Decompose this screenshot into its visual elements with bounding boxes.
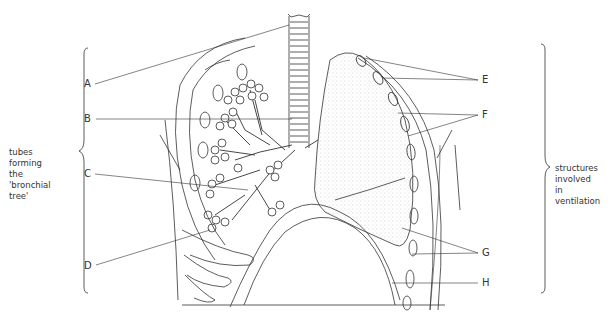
- caption-line: the: [9, 169, 51, 180]
- caption-line: in: [555, 185, 600, 196]
- ventilation-caption: structures involved in ventilation: [555, 163, 600, 207]
- label-f: F: [482, 109, 488, 120]
- alveoli: [204, 80, 284, 232]
- caption-line: forming: [9, 158, 51, 169]
- leader-lines: [95, 25, 478, 283]
- right-lung-outline: [314, 53, 413, 246]
- trachea: [288, 14, 310, 148]
- caption-line: ventilation: [555, 196, 600, 207]
- caption-line: involved: [555, 174, 600, 185]
- label-h: H: [482, 277, 490, 288]
- left-side-line: [160, 120, 180, 300]
- label-e: E: [482, 74, 488, 85]
- caption-line: tree': [9, 191, 51, 202]
- bronchial-tree-caption: tubes forming the 'bronchial tree': [9, 147, 51, 202]
- label-a: A: [84, 78, 91, 89]
- caption-line: 'bronchial: [9, 180, 51, 191]
- right-brace: [541, 44, 550, 293]
- label-b: B: [84, 113, 91, 124]
- label-g: G: [482, 247, 490, 258]
- label-d: D: [84, 260, 92, 271]
- caption-line: tubes: [9, 147, 51, 158]
- label-c: C: [84, 168, 91, 179]
- caption-line: structures: [555, 163, 600, 174]
- respiratory-diagram: [0, 0, 615, 317]
- left-ribcage: [175, 38, 255, 302]
